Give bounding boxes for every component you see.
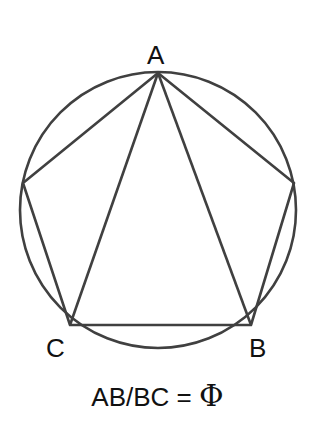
diagonal-AC [70,73,158,325]
phi-symbol: Φ [199,378,224,413]
golden-ratio-caption: AB/BC = Φ [0,378,315,413]
vertex-label-b: B [249,335,266,361]
circumscribed-circle [20,72,296,348]
vertex-label-c: C [46,335,65,361]
vertex-label-a: A [147,42,164,68]
caption-ratio-text: AB/BC = [91,382,199,412]
